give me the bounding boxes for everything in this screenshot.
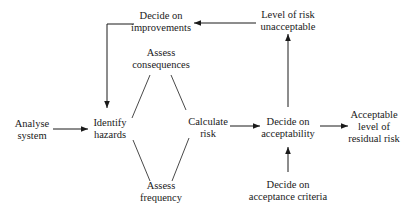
node-acceptable-residual: Acceptable level of residual risk [348, 109, 400, 145]
node-decide-criteria: Decide on acceptance criteria [249, 179, 327, 203]
edge-identify-consequences [132, 75, 150, 118]
node-analyse-system: Analyse system [15, 118, 49, 142]
edge-improvements-identify [107, 24, 134, 108]
edge-consequences-calculate [171, 75, 186, 110]
node-decide-acceptability: Decide on acceptability [261, 116, 315, 140]
node-level-unacceptable: Level of risk unacceptable [261, 9, 316, 33]
node-identify-hazards: Identify hazards [93, 117, 126, 141]
node-decide-improvements: Decide on improvements [131, 10, 191, 34]
node-calculate-risk: Calculate risk [188, 116, 228, 140]
diagram-edges [0, 0, 414, 212]
node-assess-consequences: Assess consequences [132, 47, 190, 71]
node-assess-frequency: Assess frequency [140, 180, 182, 204]
edge-identify-frequency [133, 140, 150, 181]
edge-frequency-calculate [172, 138, 189, 181]
